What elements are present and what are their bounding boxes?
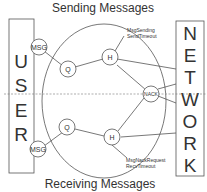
network-letter-t: T bbox=[184, 67, 196, 88]
node-msg-recv: MSG bbox=[30, 141, 46, 157]
node-q-send: Q bbox=[60, 61, 76, 77]
user-letter-r: R bbox=[14, 124, 28, 145]
messaging-diagram: Sending Messages Receiving Messages U S … bbox=[0, 0, 207, 192]
svg-text:MSG: MSG bbox=[31, 44, 47, 51]
network-letter-r: R bbox=[183, 133, 197, 154]
title-receiving-messages: Receiving Messages bbox=[45, 177, 156, 191]
user-letter-s: S bbox=[15, 75, 28, 96]
network-letter-k: K bbox=[184, 155, 197, 176]
node-msg-send: MSG bbox=[31, 39, 47, 55]
network-letter-o: O bbox=[183, 111, 198, 132]
svg-text:MSG: MSG bbox=[30, 146, 46, 153]
annotation-recv-timeout: RecvTimeout bbox=[126, 163, 156, 169]
svg-text:H: H bbox=[107, 54, 112, 61]
annotation-send-timeout: SendTimeout bbox=[127, 33, 157, 39]
node-h-recv: H bbox=[104, 129, 120, 145]
svg-text:Q: Q bbox=[64, 124, 70, 132]
svg-text:H: H bbox=[109, 134, 114, 141]
node-nack: NACK bbox=[143, 86, 159, 102]
user-letter-u: U bbox=[14, 51, 28, 72]
svg-text:NACK: NACK bbox=[144, 91, 159, 97]
user-letter-e: E bbox=[15, 100, 28, 121]
network-letter-w: W bbox=[181, 89, 199, 110]
network-letter-n: N bbox=[183, 23, 197, 44]
title-sending-messages: Sending Messages bbox=[52, 1, 154, 15]
node-h-send: H bbox=[102, 49, 118, 65]
node-q-recv: Q bbox=[59, 119, 75, 135]
network-letter-e: E bbox=[184, 45, 197, 66]
svg-text:Q: Q bbox=[65, 66, 71, 74]
